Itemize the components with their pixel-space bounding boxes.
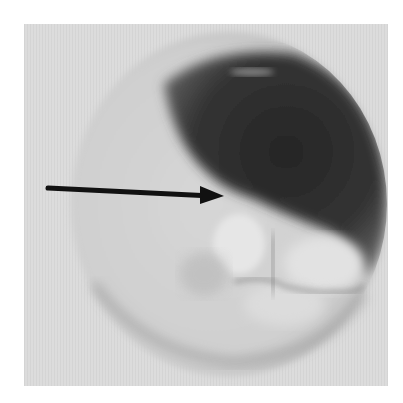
photo-illustration (24, 24, 388, 386)
photograph (24, 24, 388, 386)
